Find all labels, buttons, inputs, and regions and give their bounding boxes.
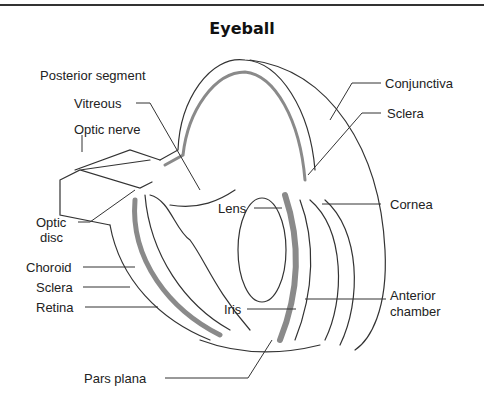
label-anterior-chamber-line1: Anterior: [390, 288, 436, 303]
label-optic-disc-line2: disc: [40, 230, 63, 245]
label-pars-plana: Pars plana: [84, 371, 146, 386]
label-posterior-segment: Posterior segment: [40, 68, 146, 83]
label-vitreous: Vitreous: [74, 96, 121, 111]
conjunctiva-arc: [250, 60, 385, 350]
cornea-inner-arc: [310, 200, 339, 340]
iris-band: [280, 195, 296, 340]
leader-conjunctiva: [330, 83, 381, 120]
label-lens: Lens: [218, 201, 246, 216]
leader-optic-disc: [78, 190, 135, 222]
label-sclera-right: Sclera: [387, 106, 424, 121]
optic-nerve-body: [60, 160, 152, 225]
label-optic-disc-line1: Optic: [36, 215, 66, 230]
label-sclera-left: Sclera: [36, 280, 73, 295]
label-conjunctiva: Conjunctiva: [385, 76, 453, 91]
label-choroid: Choroid: [26, 260, 72, 275]
label-optic-nerve: Optic nerve: [74, 122, 140, 137]
leader-vitreous: [136, 103, 200, 190]
cornea-outer-arc: [325, 200, 354, 345]
sclera-dome-inner: [165, 72, 305, 180]
label-anterior-chamber-line2: chamber: [390, 304, 441, 319]
label-cornea: Cornea: [390, 197, 433, 212]
pars-plana-curve: [200, 340, 320, 352]
label-iris: Iris: [224, 302, 241, 317]
label-retina: Retina: [36, 300, 74, 315]
leader-sclera-right: [308, 113, 381, 175]
